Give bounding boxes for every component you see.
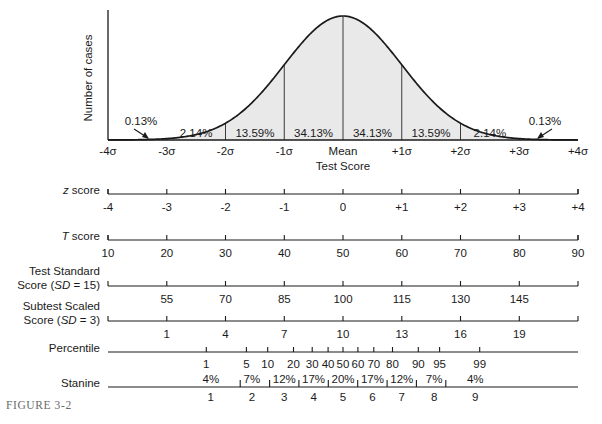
scale-value: 60 (352, 358, 365, 370)
scale-value: 100 (333, 293, 352, 305)
scale-value: 1 (203, 358, 209, 370)
scale-value: 1 (208, 391, 214, 403)
scale-value: 99 (473, 358, 486, 370)
x-axis-label: Test Score (316, 160, 370, 172)
scale-value: 60 (395, 247, 408, 259)
scale-label-t-score: T score (62, 230, 100, 242)
scale-value: +2 (454, 201, 467, 213)
scale-label-subtest-scaled-score-line2: Score (SD = 3) (24, 314, 101, 326)
scale-value: +4 (571, 201, 585, 213)
scale-value: 8 (431, 391, 437, 403)
distribution-curve-group (108, 10, 578, 140)
scale-value: 19 (513, 328, 526, 340)
scale-value: 6 (369, 391, 375, 403)
scale-row-test-standard-score: Test StandardScore (SD = 15)557085100115… (17, 265, 578, 305)
callout-arrowhead-right (537, 132, 544, 139)
sigma-tick-label: +3σ (509, 145, 529, 157)
scale-value: 20 (160, 247, 173, 259)
scale-value: 13 (395, 328, 408, 340)
sigma-tick-label: -3σ (158, 145, 175, 157)
scale-value: 4 (310, 391, 317, 403)
stanine-percent: 12% (273, 373, 296, 385)
scale-value: 40 (322, 358, 335, 370)
band-percent-label: 34.13% (353, 127, 392, 139)
sigma-tick-label: -2σ (217, 145, 234, 157)
scale-value: 30 (306, 358, 319, 370)
scale-label-stanine: Stanine (61, 377, 100, 389)
scale-value: 4 (222, 328, 229, 340)
band-percent-label: 2.14% (474, 127, 507, 139)
sigma-tick-label: +1σ (392, 145, 412, 157)
scale-value: 50 (337, 247, 350, 259)
scale-row-stanine: Stanine14%27%312%417%520%617%712%87%94% (61, 373, 578, 403)
band-percent-callout-right: 0.13% (529, 115, 562, 127)
band-percent-label: 34.13% (294, 127, 333, 139)
scale-value: 70 (219, 293, 232, 305)
stanine-percent: 12% (390, 373, 413, 385)
y-axis-label: Number of cases (82, 34, 94, 121)
band-percent-label: 2.14% (180, 127, 213, 139)
scale-value: 130 (451, 293, 470, 305)
scale-value: 115 (393, 293, 411, 305)
scale-value: 10 (261, 358, 274, 370)
scale-value: 70 (367, 358, 380, 370)
scale-value: 90 (572, 247, 585, 259)
sigma-tick-label: +4σ (568, 145, 588, 157)
scale-value: 2 (249, 391, 255, 403)
scale-value: 10 (337, 328, 350, 340)
scale-row-t-score: T score102030405060708090 (62, 230, 585, 259)
scale-value: 7 (399, 391, 405, 403)
scale-row-z-score: z score-4-3-2-10+1+2+3+4 (62, 184, 585, 213)
band-percent-callout-left: 0.13% (125, 115, 158, 127)
scale-value: 95 (433, 358, 446, 370)
scale-value: 10 (102, 247, 115, 259)
scale-label-test-standard-score: Test Standard (29, 265, 100, 277)
sigma-tick-label: -1σ (276, 145, 293, 157)
scale-label-test-standard-score-line2: Score (SD = 15) (17, 279, 100, 291)
stanine-percent: 7% (244, 373, 261, 385)
scale-value: -3 (162, 201, 172, 213)
scale-value: 1 (164, 328, 170, 340)
scale-label-percentile: Percentile (49, 342, 100, 354)
scale-label-z-score: z score (62, 184, 100, 196)
scale-row-percentile: Percentile151020304050607080909599 (49, 342, 578, 370)
scale-value: 7 (281, 328, 287, 340)
scale-value: 80 (513, 247, 526, 259)
stanine-percent: 17% (302, 373, 325, 385)
scale-value: 145 (510, 293, 529, 305)
scale-label-subtest-scaled-score: Subtest Scaled (23, 300, 100, 312)
scale-value: 70 (454, 247, 467, 259)
scale-value: 0 (340, 201, 346, 213)
scale-value: 85 (278, 293, 291, 305)
band-percent-label: 13.59% (235, 127, 274, 139)
sigma-tick-label: -4σ (99, 145, 116, 157)
scale-value: +3 (513, 201, 526, 213)
scale-row-subtest-scaled-score: Subtest ScaledScore (SD = 3)14710131619 (23, 300, 578, 340)
scale-value: 50 (337, 358, 350, 370)
scale-value: 3 (281, 391, 287, 403)
scale-value: -2 (220, 201, 230, 213)
scale-value: 30 (219, 247, 232, 259)
scale-value: 90 (412, 358, 425, 370)
scale-value: +1 (395, 201, 408, 213)
stanine-percent: 4% (467, 373, 484, 385)
stanine-percent: 17% (361, 373, 384, 385)
scale-value: -4 (103, 201, 114, 213)
scale-value: 55 (160, 293, 173, 305)
scale-value: 5 (340, 391, 346, 403)
scale-value: 40 (278, 247, 291, 259)
scale-value: 16 (454, 328, 467, 340)
normal-distribution-figure: Number of cases2.14%13.59%34.13%34.13%13… (0, 0, 602, 424)
stanine-percent: 4% (202, 373, 219, 385)
sigma-tick-label: Mean (329, 145, 358, 157)
band-percent-label: 13.59% (412, 127, 451, 139)
scale-value: 9 (472, 391, 478, 403)
scale-value: 80 (386, 358, 399, 370)
stanine-percent: 7% (426, 373, 443, 385)
scale-value: 20 (287, 358, 300, 370)
stanine-percent: 20% (331, 373, 354, 385)
sigma-tick-label: +2σ (450, 145, 470, 157)
callout-arrowhead-left (142, 132, 149, 139)
scale-value: 5 (243, 358, 249, 370)
scale-value: -1 (279, 201, 289, 213)
